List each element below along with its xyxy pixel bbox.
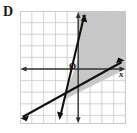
x-axis-label: x	[119, 70, 124, 79]
origin-label: O	[69, 62, 76, 71]
y-axis-label: y	[82, 12, 86, 21]
choice-letter-label: D	[3, 5, 13, 19]
answer-choice-figure: D	[0, 0, 137, 133]
